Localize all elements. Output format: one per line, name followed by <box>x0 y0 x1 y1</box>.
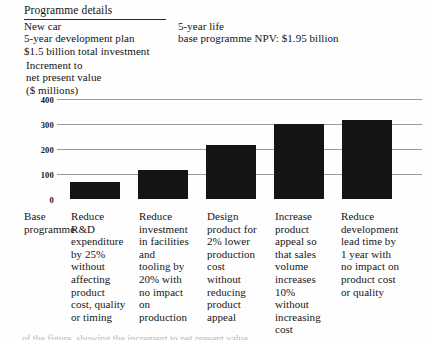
y-tick-label-0: 0 <box>20 195 54 205</box>
category-label-3: Increase product appeal so that sales vo… <box>275 210 333 336</box>
y-tick-label-200: 200 <box>20 145 54 155</box>
bottom-caption: of the figure, showing the increment to … <box>22 333 412 340</box>
bar-design-product-lower-cost <box>206 145 256 199</box>
bar-reduce-development-lead-time <box>342 120 392 199</box>
category-label-base-programme: Base programme <box>24 210 72 235</box>
bar-reduce-rd-expenditure <box>70 182 120 200</box>
axis-baseline <box>57 199 422 200</box>
category-label-4: Reduce development lead time by 1 year w… <box>341 210 425 298</box>
y-tick-label-300: 300 <box>20 120 54 130</box>
figure-canvas: Programme details New car 5-year develop… <box>0 0 429 340</box>
gridline-400 <box>57 99 422 100</box>
category-label-0: Reduce R&D expenditure by 25% without af… <box>71 210 133 323</box>
category-label-1: Reduce investment in facilities and tool… <box>139 210 201 323</box>
y-tick-label-100: 100 <box>20 170 54 180</box>
bar-reduce-investment-facilities <box>138 170 188 199</box>
y-tick-label-400: 400 <box>20 95 54 105</box>
bar-increase-product-appeal <box>274 124 324 199</box>
category-label-2: Design product for 2% lower production c… <box>207 210 270 323</box>
